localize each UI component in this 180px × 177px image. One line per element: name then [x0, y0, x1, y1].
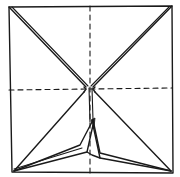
center-notch-right: [93, 87, 95, 92]
stem-line-right: [92, 88, 93, 120]
top-left-double-diagonal: [9, 7, 88, 87]
top-right-double-diagonal: [91, 6, 172, 87]
center-to-bottom-left-line: [14, 92, 84, 171]
stem-line-left: [89, 88, 90, 122]
origami-crease-diagram: [0, 0, 180, 177]
